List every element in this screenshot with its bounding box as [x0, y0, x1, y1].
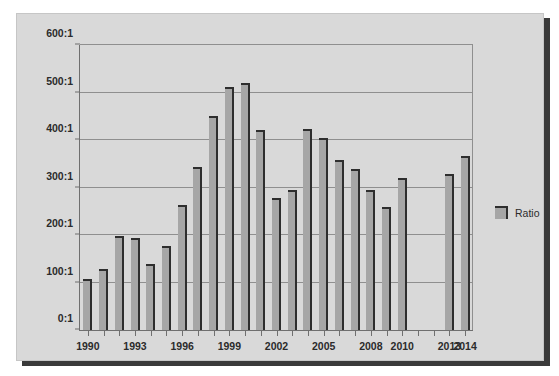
y-axis-label: 400:1 [46, 122, 73, 134]
bar [398, 178, 407, 330]
bar [131, 238, 140, 330]
bar-series-ratio [80, 45, 473, 330]
chart-screenshot: 0:1100:1200:1300:1400:1500:1600:1 199019… [0, 0, 559, 376]
x-tick-mark [214, 330, 215, 336]
bar [193, 167, 202, 330]
x-axis-label: 1999 [218, 340, 241, 352]
bar [366, 190, 375, 330]
plot-area-wrapper: 0:1100:1200:1300:1400:1500:1600:1 199019… [61, 28, 481, 334]
legend-swatch-ratio [495, 206, 508, 219]
y-axis-label: 500:1 [46, 75, 73, 87]
x-tick-mark [277, 330, 278, 336]
bar [209, 116, 218, 330]
x-tick-mark [88, 330, 89, 336]
bar [335, 160, 344, 330]
x-tick-mark [151, 330, 152, 336]
bar [288, 190, 297, 330]
x-tick-mark [261, 330, 262, 336]
y-axis-label: 600:1 [46, 27, 73, 39]
bar [272, 198, 281, 330]
x-axis-label: 2002 [265, 340, 288, 352]
x-tick-mark [418, 330, 419, 336]
chart-panel: 0:1100:1200:1300:1400:1500:1600:1 199019… [16, 13, 544, 361]
bar [225, 87, 234, 330]
x-tick-mark [465, 330, 466, 336]
x-tick-mark [355, 330, 356, 336]
bar [445, 174, 454, 330]
bar [115, 236, 124, 330]
x-tick-mark [166, 330, 167, 336]
y-axis-label: 200:1 [46, 217, 73, 229]
y-axis-label: 300:1 [46, 170, 73, 182]
bar [99, 269, 108, 330]
x-axis-label: 1990 [76, 340, 99, 352]
x-tick-mark [292, 330, 293, 336]
x-axis-label: 2014 [453, 340, 476, 352]
x-axis-label: 2005 [312, 340, 335, 352]
x-axis-label: 1996 [170, 340, 193, 352]
x-tick-mark [387, 330, 388, 336]
x-tick-mark [371, 330, 372, 336]
x-tick-mark [104, 330, 105, 336]
y-axis-label: 0:1 [58, 312, 73, 324]
bar [319, 138, 328, 330]
x-tick-mark [182, 330, 183, 336]
x-axis-label: 2008 [359, 340, 382, 352]
bar [256, 130, 265, 330]
plot-area: 0:1100:1200:1300:1400:1500:1600:1 199019… [79, 45, 473, 331]
bar [162, 246, 171, 330]
x-tick-mark [449, 330, 450, 336]
x-tick-mark [135, 330, 136, 336]
chart-legend: Ratio [495, 206, 540, 219]
bar [146, 264, 155, 330]
x-tick-mark [119, 330, 120, 336]
x-tick-mark [245, 330, 246, 336]
x-axis-label: 1993 [123, 340, 146, 352]
bar [382, 207, 391, 330]
x-tick-mark [324, 330, 325, 336]
x-tick-mark [308, 330, 309, 336]
x-tick-mark [229, 330, 230, 336]
bar [241, 83, 250, 330]
bar [351, 169, 360, 330]
x-tick-mark [198, 330, 199, 336]
legend-label-ratio: Ratio [515, 207, 540, 219]
x-axis-label: 2010 [391, 340, 414, 352]
x-tick-mark [339, 330, 340, 336]
bar [461, 156, 470, 330]
x-tick-mark [434, 330, 435, 336]
bar [178, 205, 187, 330]
y-axis-label: 100:1 [46, 265, 73, 277]
bar [303, 129, 312, 330]
x-tick-mark [402, 330, 403, 336]
bar [83, 279, 92, 330]
